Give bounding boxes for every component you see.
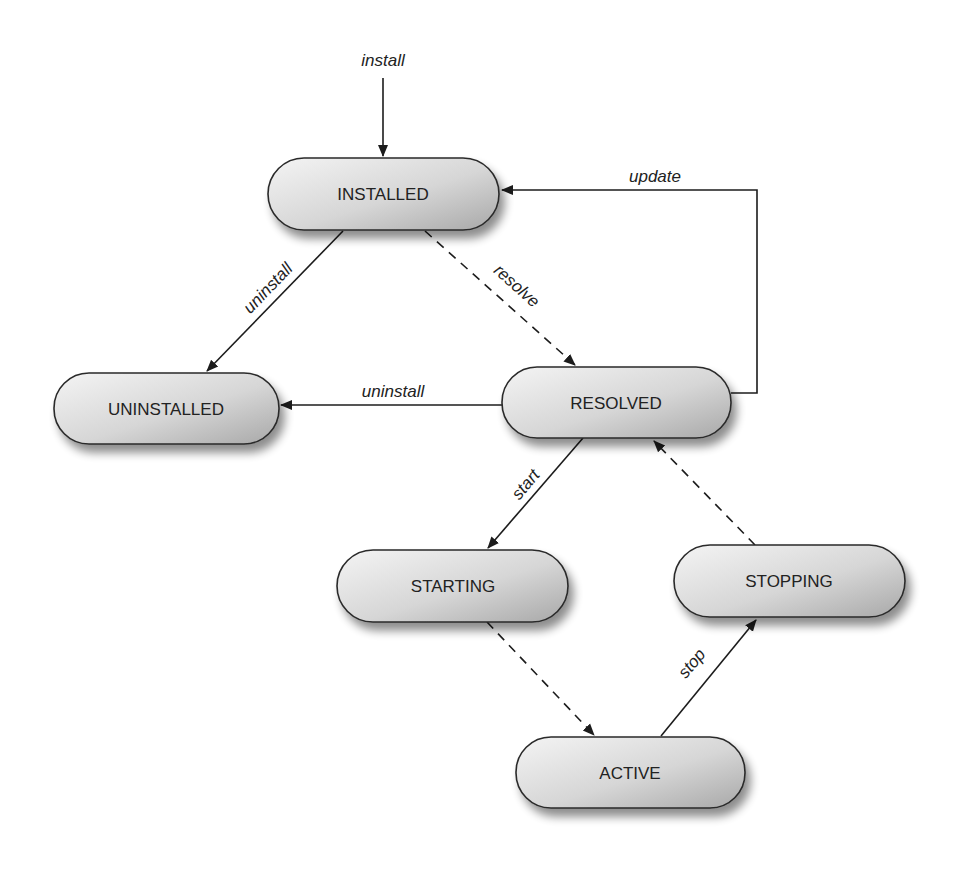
node-label-starting: STARTING [411, 577, 495, 596]
edge-label-resolve: resolve [490, 261, 543, 312]
node-active[interactable]: ACTIVE [516, 737, 745, 808]
edge-label-start: start [508, 465, 545, 504]
node-installed[interactable]: INSTALLED [268, 158, 499, 230]
node-uninstalled[interactable]: UNINSTALLED [54, 373, 279, 444]
edge-start: start [488, 438, 583, 548]
edge-starting-active [487, 622, 594, 735]
edge-install: install [361, 51, 406, 156]
edge-stop: stop [661, 620, 756, 736]
edge-installed-uninstall: uninstall [207, 231, 343, 371]
edge-update: update [502, 167, 757, 393]
state-diagram: install uninstall resolve update uninsta… [0, 0, 961, 876]
edge-resolved-uninstall: uninstall [281, 382, 502, 405]
node-starting[interactable]: STARTING [337, 550, 568, 622]
node-stopping[interactable]: STOPPING [674, 545, 905, 617]
edge-label-update: update [629, 167, 681, 186]
node-label-installed: INSTALLED [337, 185, 428, 204]
edge-stopping-resolved [654, 441, 755, 545]
edge-label-install: install [361, 51, 406, 70]
node-label-active: ACTIVE [599, 764, 660, 783]
node-label-stopping: STOPPING [745, 572, 833, 591]
node-label-uninstalled: UNINSTALLED [108, 400, 224, 419]
edge-resolve: resolve [425, 231, 575, 365]
edge-label-stop: stop [674, 645, 709, 682]
node-label-resolved: RESOLVED [570, 394, 661, 413]
edge-label-uninstall-horizontal: uninstall [362, 382, 426, 401]
node-resolved[interactable]: RESOLVED [502, 367, 731, 438]
nodes: INSTALLED UNINSTALLED RESOLVED STARTING … [54, 158, 905, 808]
